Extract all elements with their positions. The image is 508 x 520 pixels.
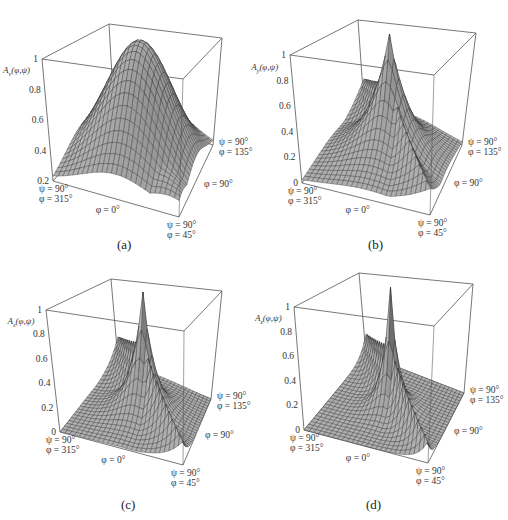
surface-plot-c — [0, 260, 254, 520]
corner-label-left-psi: ψ = 90° — [46, 435, 75, 445]
edge-label-front: φ = 0° — [96, 205, 120, 215]
panel-caption: (a) — [117, 237, 131, 253]
z-tick-label: 0.6 — [270, 351, 294, 361]
corner-label-left-phi: φ = 315° — [39, 194, 73, 204]
z-tick-label: 1 — [266, 302, 290, 312]
corner-label-front-psi: ψ = 90° — [418, 218, 447, 228]
box-edge — [111, 279, 222, 291]
box-edge — [464, 284, 473, 393]
corner-label-left-phi: φ = 315° — [288, 196, 322, 206]
z-axis-label: Az(φ,ψ) — [255, 313, 282, 325]
edge-label-right: φ = 90° — [205, 430, 234, 440]
z-tick-label: 0.4 — [26, 378, 50, 388]
z-tick-label: 1 — [18, 305, 42, 315]
corner-label-front-phi: φ = 45° — [167, 230, 196, 240]
corner-label-front-psi: ψ = 90° — [171, 468, 200, 478]
corner-label-front-phi: φ = 45° — [418, 228, 447, 238]
z-label-args: (φ,ψ) — [259, 62, 278, 72]
box-edge — [462, 33, 476, 145]
panel-c: 10.80.60.40.20Ax(φ,ψ)ψ = 90°φ = 315°φ = … — [0, 260, 254, 520]
surface-mesh — [304, 287, 464, 454]
z-label-args: (φ,ψ) — [16, 316, 35, 326]
corner-label-left-psi: ψ = 90° — [39, 184, 68, 194]
z-axis-label: Av(φ,ψ) — [3, 65, 30, 77]
z-tick-label: 0.8 — [17, 85, 41, 95]
corner-label-left-psi: ψ = 90° — [290, 433, 319, 443]
box-edge — [183, 38, 222, 79]
z-label-args: (φ,ψ) — [11, 65, 30, 75]
z-tick-label: 0.8 — [264, 76, 288, 86]
corner-label-front-phi: φ = 45° — [416, 476, 445, 486]
corner-label-right-phi: φ = 135° — [468, 147, 502, 157]
surface-mesh — [302, 34, 462, 196]
z-axis-label: Ay(φ,ψ) — [251, 62, 278, 74]
z-tick-label: 0.2 — [29, 403, 53, 413]
surface-mesh — [60, 292, 211, 453]
box-edge — [46, 310, 60, 432]
z-tick-label: 1 — [14, 54, 38, 64]
edge-label-front: φ = 0° — [101, 455, 125, 465]
edge-label-right: φ = 90° — [454, 178, 483, 188]
z-tick-label: 0.6 — [24, 354, 48, 364]
corner-label-right-psi: ψ = 90° — [217, 391, 246, 401]
edge-label-front: φ = 0° — [346, 205, 370, 215]
z-tick-label: 0.4 — [272, 376, 296, 386]
corner-label-right-psi: ψ = 90° — [468, 137, 497, 147]
box-edge — [359, 273, 473, 284]
panel-b: 10.80.60.40.20Ay(φ,ψ)ψ = 90°φ = 315°φ = … — [254, 0, 508, 260]
edge-label-right: φ = 90° — [454, 426, 483, 436]
z-tick-label: 0.2 — [274, 400, 298, 410]
z-tick-label: 0.4 — [22, 146, 46, 156]
panel-d: 10.80.60.40.20Az(φ,ψ)ψ = 90°φ = 315°φ = … — [254, 260, 508, 520]
z-tick-label: 0.8 — [21, 329, 45, 339]
edge-label-right: φ = 90° — [204, 179, 233, 189]
surface-plot-a — [0, 0, 254, 260]
box-edge — [211, 291, 222, 399]
corner-label-right-psi: ψ = 90° — [470, 385, 499, 395]
edge-label-front: φ = 0° — [346, 453, 370, 463]
box-edge — [294, 307, 304, 430]
corner-label-right-phi: φ = 135° — [217, 401, 251, 411]
z-axis-label: Ax(φ,ψ) — [7, 316, 34, 328]
z-label-args: (φ,ψ) — [263, 313, 282, 323]
z-tick-label: 0.6 — [267, 101, 291, 111]
z-tick-label: 0.8 — [268, 327, 292, 337]
box-edge — [213, 38, 222, 145]
box-edge — [434, 33, 476, 75]
box-edge — [290, 55, 302, 183]
box-edge — [294, 307, 434, 326]
box-edge — [294, 273, 359, 307]
panel-a: 10.80.60.40.2Av(φ,ψ)ψ = 90°φ = 315°φ = 0… — [0, 0, 254, 260]
panel-caption: (d) — [366, 497, 381, 513]
corner-label-front-phi: φ = 45° — [171, 478, 200, 488]
corner-label-right-phi: φ = 135° — [470, 395, 504, 405]
z-tick-label: 0.6 — [20, 115, 44, 125]
corner-label-left-psi: ψ = 90° — [288, 186, 317, 196]
panel-caption: (c) — [121, 497, 135, 513]
box-edge — [46, 279, 111, 310]
box-edge — [290, 20, 358, 55]
z-tick-label: 1 — [262, 50, 286, 60]
box-edge — [42, 24, 109, 59]
box-edge — [358, 20, 476, 33]
panel-caption: (b) — [368, 237, 383, 253]
corner-label-right-phi: φ = 135° — [219, 147, 253, 157]
corner-label-left-phi: φ = 315° — [290, 443, 324, 453]
box-edge — [434, 284, 473, 326]
corner-label-left-phi: φ = 315° — [46, 445, 80, 455]
corner-label-right-psi: ψ = 90° — [219, 137, 248, 147]
corner-label-front-psi: ψ = 90° — [416, 466, 445, 476]
z-tick-label: 0.2 — [272, 152, 296, 162]
corner-label-front-psi: ψ = 90° — [167, 220, 196, 230]
z-tick-label: 0.4 — [269, 127, 293, 137]
box-edge — [109, 24, 222, 38]
box-edge — [184, 291, 222, 331]
box-edge — [183, 331, 184, 465]
